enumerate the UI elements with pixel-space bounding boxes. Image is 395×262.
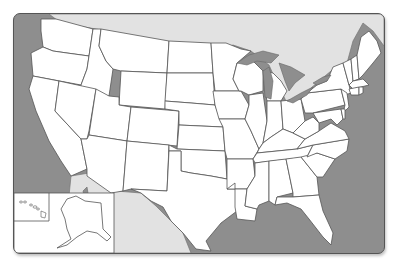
map-canvas — [14, 14, 384, 253]
state-maine — [357, 31, 381, 79]
us-outline-map — [13, 13, 385, 254]
lake-michigan — [263, 67, 273, 99]
state-wyoming — [119, 71, 167, 109]
state-florida — [275, 195, 333, 245]
state-north-dakota — [167, 41, 213, 73]
state-connecticut — [349, 87, 359, 95]
state-iowa — [213, 91, 249, 119]
state-new-mexico — [123, 141, 169, 191]
state-colorado — [127, 107, 179, 146]
state-rhode-island — [359, 87, 363, 95]
state-kansas — [177, 125, 225, 151]
state-south-dakota — [165, 73, 215, 105]
